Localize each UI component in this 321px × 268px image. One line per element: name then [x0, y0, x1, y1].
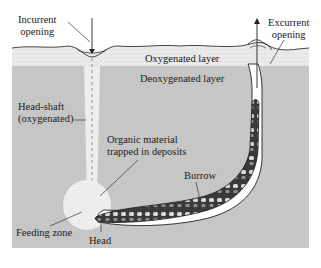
label-oxygenated-layer: Oxygenated layer	[145, 53, 219, 65]
label-deoxygenated-layer: Deoxygenated layer	[140, 73, 224, 85]
label-excurrent-opening: Excurrent opening	[268, 17, 309, 41]
label-line: Organic material	[107, 134, 186, 146]
label-line: opening	[18, 26, 56, 38]
label-incurrent-opening: Incurrent opening	[18, 14, 56, 38]
label-feeding-zone: Feeding zone	[16, 227, 72, 239]
label-line: (oxygenated)	[18, 113, 73, 125]
label-line: opening	[268, 29, 309, 41]
label-line: Incurrent	[18, 14, 56, 26]
worm-burrow-diagram: Incurrent opening Excurrent opening Oxyg…	[0, 0, 321, 268]
label-burrow: Burrow	[184, 170, 216, 182]
label-head: Head	[89, 235, 111, 247]
label-line: Excurrent	[268, 17, 309, 29]
label-organic-material: Organic material trapped in deposits	[107, 134, 186, 158]
label-line: trapped in deposits	[107, 146, 186, 158]
label-line: Head-shaft	[18, 101, 73, 113]
label-head-shaft: Head-shaft (oxygenated)	[18, 101, 73, 125]
